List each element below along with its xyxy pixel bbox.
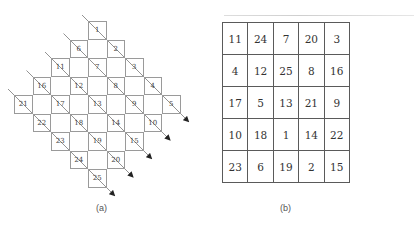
cell-number: 10 bbox=[148, 119, 157, 127]
cell-number: 21 bbox=[19, 100, 28, 108]
table-cell: 20 bbox=[299, 23, 324, 55]
cell-number: 7 bbox=[95, 63, 99, 71]
table-cell: 5 bbox=[248, 87, 273, 119]
top-rule-divider bbox=[224, 15, 414, 16]
table-cell: 19 bbox=[273, 151, 298, 183]
cell-number: 6 bbox=[77, 45, 81, 53]
table-cell: 3 bbox=[324, 23, 349, 55]
cell-number: 23 bbox=[56, 137, 65, 145]
cell-number: 14 bbox=[111, 119, 120, 127]
cell-number: 15 bbox=[130, 137, 139, 145]
cell-number: 18 bbox=[74, 119, 83, 127]
table-cell: 21 bbox=[299, 87, 324, 119]
cell-number: 19 bbox=[93, 137, 102, 145]
table-cell: 24 bbox=[248, 23, 273, 55]
table-row: 23619215 bbox=[223, 151, 350, 183]
table-row: 11247203 bbox=[223, 23, 350, 55]
cell-number: 12 bbox=[74, 82, 83, 90]
table-cell: 23 bbox=[223, 151, 248, 183]
table-cell: 25 bbox=[273, 55, 298, 87]
cell-number: 1 bbox=[95, 26, 99, 34]
cell-number: 13 bbox=[93, 100, 102, 108]
cell-number: 9 bbox=[132, 100, 136, 108]
table-cell: 9 bbox=[324, 87, 349, 119]
table-cell: 8 bbox=[299, 55, 324, 87]
table-cell: 15 bbox=[324, 151, 349, 183]
figure-caption bbox=[140, 229, 280, 233]
table-row: 41225816 bbox=[223, 55, 350, 87]
table-cell: 12 bbox=[248, 55, 273, 87]
panel-b-label: (b) bbox=[280, 203, 291, 213]
table-cell: 13 bbox=[273, 87, 298, 119]
cell-number: 11 bbox=[56, 63, 65, 71]
cell-number: 16 bbox=[37, 82, 46, 90]
table-cell: 7 bbox=[273, 23, 298, 55]
panel-a-diamond-grid: 1234567891011121314151617181920212223242… bbox=[0, 0, 210, 200]
cell-number: 8 bbox=[114, 82, 118, 90]
cell-number: 20 bbox=[111, 156, 120, 164]
cell-number: 22 bbox=[37, 119, 46, 127]
table-cell: 6 bbox=[248, 151, 273, 183]
cell-number: 25 bbox=[93, 174, 102, 182]
panel-a-label: (a) bbox=[96, 203, 107, 213]
cell-number: 5 bbox=[169, 100, 173, 108]
panel-b-magic-square-table: 1124720341225816175132191018114222361921… bbox=[222, 22, 350, 183]
table-cell: 4 bbox=[223, 55, 248, 87]
cell-number: 3 bbox=[132, 63, 136, 71]
cell-number: 2 bbox=[114, 45, 118, 53]
table-cell: 22 bbox=[324, 119, 349, 151]
table-cell: 2 bbox=[299, 151, 324, 183]
table-row: 17513219 bbox=[223, 87, 350, 119]
table-cell: 1 bbox=[273, 119, 298, 151]
table-cell: 14 bbox=[299, 119, 324, 151]
cell-number: 4 bbox=[151, 82, 155, 90]
table-cell: 16 bbox=[324, 55, 349, 87]
cell-number: 24 bbox=[74, 156, 83, 164]
table-cell: 18 bbox=[248, 119, 273, 151]
table-cell: 17 bbox=[223, 87, 248, 119]
table-row: 101811422 bbox=[223, 119, 350, 151]
table-cell: 11 bbox=[223, 23, 248, 55]
cell-number: 17 bbox=[56, 100, 65, 108]
table-cell: 10 bbox=[223, 119, 248, 151]
